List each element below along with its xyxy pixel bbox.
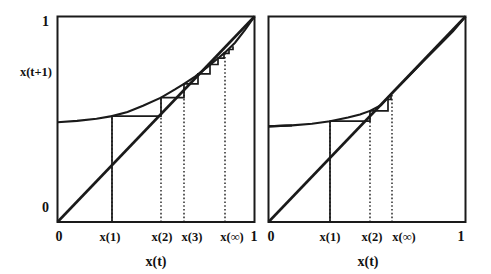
right-map-curve [269,17,466,127]
left-xtick-1: 1 [251,229,258,244]
right-xtick-x2: x(2) [362,230,383,244]
left-xtick-x1: x(1) [100,230,121,244]
left-cobweb-staircase [112,46,233,222]
left-xtick-x2: x(2) [152,230,173,244]
left-xtick-x3: x(3) [182,230,203,244]
right-panel: 0 x(1) x(2) x(∞) 1 x(t) [268,17,466,271]
left-xtick-xinf: x(∞) [220,230,244,244]
right-dotted-guides [330,93,392,222]
left-y-axis-label: x(t+1) [20,65,52,79]
left-ytick-0: 0 [42,200,49,215]
figure-root: 1 0 x(t+1) 0 x(1) x(2) x(3) x(∞) 1 x(t) [0,0,491,274]
left-ytick-1: 1 [42,14,49,29]
left-xtick-0: 0 [56,229,63,244]
right-xtick-1: 1 [458,229,465,244]
left-x-axis-label: x(t) [146,254,167,270]
right-xtick-x1: x(1) [320,230,341,244]
left-panel: 1 0 x(t+1) 0 x(1) x(2) x(3) x(∞) 1 x(t) [20,14,258,270]
cobweb-diagram: 1 0 x(t+1) 0 x(1) x(2) x(3) x(∞) 1 x(t) [0,0,491,274]
left-dotted-guides [112,52,225,222]
right-x-axis-label: x(t) [358,254,379,270]
right-xtick-0: 0 [268,229,275,244]
right-xtick-xinf: x(∞) [392,230,416,244]
right-curve-axis-join [269,125,293,126]
